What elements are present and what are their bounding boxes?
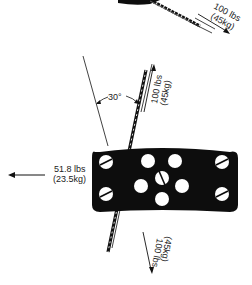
hole-1 bbox=[141, 154, 155, 168]
reference-line bbox=[83, 56, 108, 146]
screw-top-right bbox=[215, 155, 229, 169]
screw-top-left bbox=[99, 155, 113, 169]
hole-3 bbox=[134, 179, 148, 193]
top-plate-fragment bbox=[118, 0, 215, 33]
side-force-label-kg: (23.5kg) bbox=[53, 174, 86, 184]
screw-bottom-left bbox=[99, 187, 113, 201]
side-force-label-lbs: 51.8 lbs bbox=[54, 164, 86, 174]
hole-5 bbox=[155, 192, 169, 206]
side-force-arrow bbox=[8, 172, 45, 178]
screw-bottom-right bbox=[215, 187, 229, 201]
force-diagram: 100 lbs (45kg) 30° 100 lbs (45kg) bbox=[0, 0, 252, 285]
angle-indicator: 30° bbox=[96, 92, 139, 104]
angle-label: 30° bbox=[108, 92, 122, 102]
hole-4 bbox=[175, 179, 189, 193]
hole-2 bbox=[168, 154, 182, 168]
screw-center bbox=[155, 171, 169, 185]
